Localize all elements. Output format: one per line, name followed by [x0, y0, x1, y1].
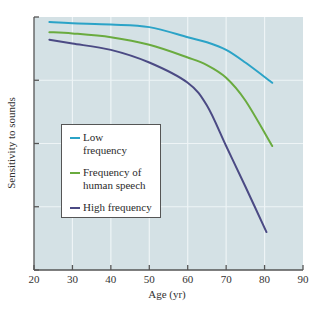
x-tick-label: 20 — [29, 273, 41, 285]
x-tick-labels: 2030405060708090 — [29, 273, 310, 285]
legend-swatch-speech — [70, 172, 80, 174]
x-tick-label: 60 — [182, 273, 194, 285]
legend-swatch-high — [70, 207, 80, 209]
x-tick-label: 70 — [221, 273, 233, 285]
legend-label: High frequency — [83, 201, 152, 214]
x-tick-label: 90 — [298, 273, 310, 285]
legend-label: Low frequency — [83, 131, 127, 157]
x-tick-label: 50 — [144, 273, 156, 285]
x-axis-label: Age (yr) — [148, 288, 186, 301]
legend-item-high-frequency: High frequency — [70, 201, 156, 214]
x-tick-label: 30 — [67, 273, 79, 285]
legend-swatch-low — [70, 137, 80, 139]
x-tick-label: 80 — [259, 273, 271, 285]
legend-item-low-frequency: Low frequency — [70, 131, 156, 157]
legend-label: Frequency of human speech — [83, 166, 146, 192]
legend: Low frequency Frequency of human speech … — [61, 124, 161, 218]
legend-item-speech-frequency: Frequency of human speech — [70, 166, 156, 192]
y-axis-label: Sensitivity to sounds — [5, 97, 17, 189]
x-tick-label: 40 — [105, 273, 117, 285]
